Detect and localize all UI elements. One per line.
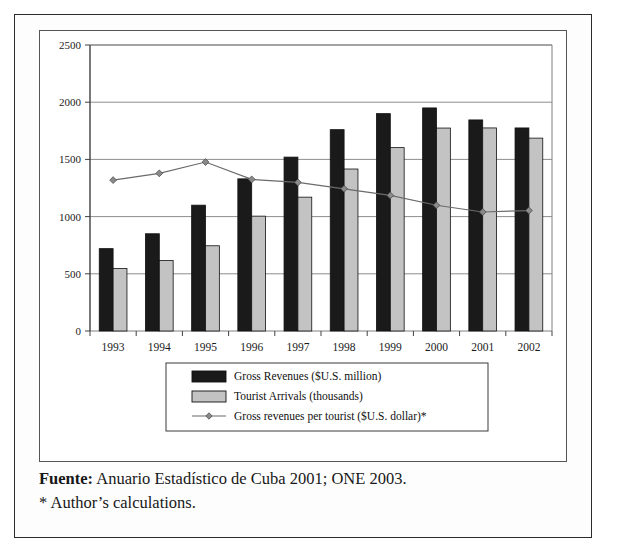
y-axis-tick-label: 500 xyxy=(65,268,82,280)
y-axis-tick-label: 2500 xyxy=(59,39,82,51)
chart-svg: 0500100015002000250019931994199519961997… xyxy=(40,31,566,461)
x-axis-tick-label: 1994 xyxy=(148,341,171,353)
legend-group: Gross Revenues ($U.S. million)Tourist Ar… xyxy=(166,363,488,431)
x-axis-tick-label: 1998 xyxy=(333,341,356,353)
bar xyxy=(238,179,252,331)
x-axis-tick-label: 1993 xyxy=(102,341,125,353)
bar xyxy=(344,169,358,331)
y-axis-tick-label: 2000 xyxy=(59,96,82,108)
figure-frame: 0500100015002000250019931994199519961997… xyxy=(14,14,592,538)
x-axis-tick-label: 1997 xyxy=(286,341,309,353)
source-text: Anuario Estadístico de Cuba 2001; ONE 20… xyxy=(93,469,406,488)
bar xyxy=(437,128,451,331)
bar xyxy=(99,249,113,331)
x-axis-tick-label: 2002 xyxy=(517,341,540,353)
bar xyxy=(298,197,312,331)
legend-label: Tourist Arrivals (thousands) xyxy=(234,390,363,403)
chart-panel: 0500100015002000250019931994199519961997… xyxy=(39,30,567,462)
bar xyxy=(390,148,404,331)
bar xyxy=(529,138,543,331)
bar xyxy=(469,120,483,331)
bar xyxy=(192,205,206,331)
bar xyxy=(145,234,159,331)
y-axis-tick-label: 1500 xyxy=(59,153,82,165)
x-axis-tick-label: 1996 xyxy=(240,341,263,353)
footnote-line: * Author’s calculations. xyxy=(39,491,569,515)
source-block: Fuente: Anuario Estadístico de Cuba 2001… xyxy=(39,467,569,515)
bar xyxy=(376,114,390,331)
x-axis-tick-label: 1995 xyxy=(194,341,217,353)
source-label: Fuente: xyxy=(39,469,93,488)
bar xyxy=(159,260,173,331)
legend-label: Gross revenues per tourist ($U.S. dollar… xyxy=(234,410,427,423)
x-axis-tick-label: 1999 xyxy=(379,341,402,353)
bar xyxy=(113,269,127,331)
bar xyxy=(330,130,344,331)
bar xyxy=(252,216,266,331)
legend-label: Gross Revenues ($U.S. million) xyxy=(234,370,381,383)
bar xyxy=(423,108,437,331)
x-axis-tick-label: 2001 xyxy=(471,341,494,353)
bar xyxy=(206,246,220,331)
y-axis-tick-label: 1000 xyxy=(59,211,82,223)
source-line: Fuente: Anuario Estadístico de Cuba 2001… xyxy=(39,467,569,491)
x-axis-tick-label: 2000 xyxy=(425,341,448,353)
bar xyxy=(515,128,529,331)
legend-swatch xyxy=(192,391,226,402)
legend-swatch xyxy=(192,371,226,382)
y-axis-tick-label: 0 xyxy=(76,325,82,337)
bar xyxy=(483,128,497,331)
